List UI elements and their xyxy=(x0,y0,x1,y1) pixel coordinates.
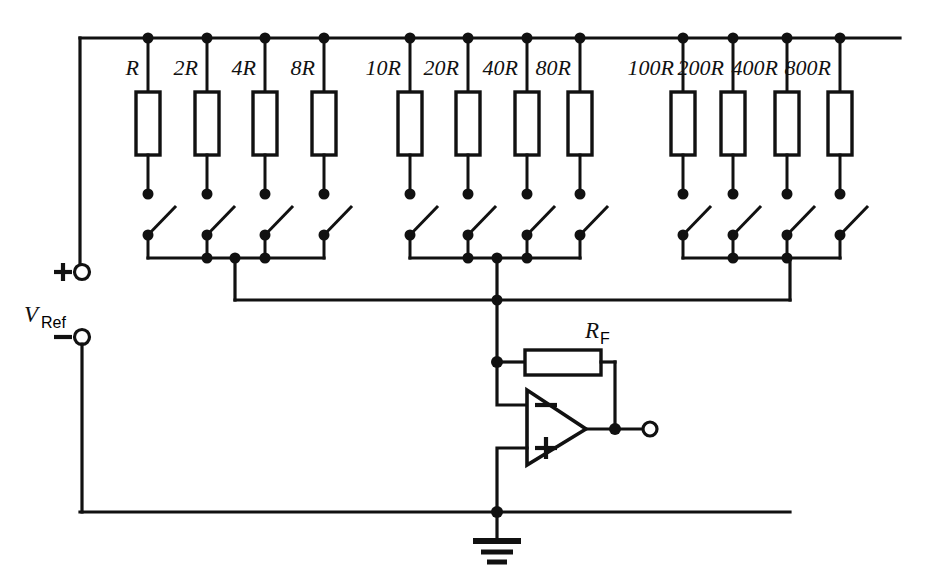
switch-top-node-10R xyxy=(405,189,416,200)
switch-top-node-8R xyxy=(319,189,330,200)
label-800R: 800R xyxy=(785,55,832,80)
vref-plus-terminal[interactable] xyxy=(75,265,90,280)
resistor-body-2R xyxy=(195,92,219,155)
rf-label: R F xyxy=(584,318,610,347)
units-bus-node-b xyxy=(260,253,271,264)
label-4R: 4R xyxy=(232,55,257,80)
circuit-diagram: R 2R 4R 8R 10R 20R 40R 80R 100R 200R 400… xyxy=(0,0,926,580)
resistor-body-RF xyxy=(525,350,601,375)
output-node xyxy=(609,423,621,435)
switch-arm-4R xyxy=(265,207,292,235)
switch-arm-10R xyxy=(410,207,437,235)
ground-symbol xyxy=(473,541,521,562)
label-40R: 40R xyxy=(483,55,519,80)
vref-label: V Ref xyxy=(24,302,66,331)
resistor-labels: R 2R 4R 8R 10R 20R 40R 80R 100R 200R 400… xyxy=(125,55,832,80)
switch-top-node-80R xyxy=(575,189,586,200)
tens-bus-node-b xyxy=(522,253,533,264)
opamp-symbol xyxy=(497,390,657,512)
label-2R: 2R xyxy=(174,55,199,80)
switch-arm-100R xyxy=(683,207,710,235)
switch-top-node-20R xyxy=(463,189,474,200)
switch-arm-20R xyxy=(468,207,495,235)
output-terminal[interactable] xyxy=(643,422,657,436)
switch-top-node-400R xyxy=(782,189,793,200)
switch-arm-400R xyxy=(787,207,814,235)
vref-symbol: V xyxy=(24,302,41,327)
switch-arm-8R xyxy=(324,207,351,235)
resistor-body-800R xyxy=(828,92,852,155)
resistor-body-20R xyxy=(456,92,480,155)
switch-arm-R xyxy=(148,207,175,235)
switch-top-node-800R xyxy=(835,189,846,200)
switch-arm-40R xyxy=(527,207,554,235)
resistor-body-100R xyxy=(671,92,695,155)
resistor-body-400R xyxy=(775,92,799,155)
resistor-body-4R xyxy=(253,92,277,155)
ground-rail xyxy=(80,506,790,562)
label-100R: 100R xyxy=(628,55,675,80)
label-20R: 20R xyxy=(424,55,460,80)
hundreds-bus-node-a xyxy=(728,253,739,264)
schematic-canvas: R 2R 4R 8R 10R 20R 40R 80R 100R 200R 400… xyxy=(0,0,926,580)
switch-top-node-R xyxy=(143,189,154,200)
resistor-branch-80R xyxy=(568,33,607,259)
switch-top-node-40R xyxy=(522,189,533,200)
resistor-body-8R xyxy=(312,92,336,155)
resistor-body-200R xyxy=(721,92,745,155)
resistor-branch-R xyxy=(136,33,175,259)
resistor-branch-800R xyxy=(828,33,867,259)
vref-subscript: Ref xyxy=(41,314,66,331)
summing-bus xyxy=(235,295,790,363)
vref-source xyxy=(54,263,90,512)
resistor-body-R xyxy=(136,92,160,155)
resistor-branch-8R xyxy=(312,33,351,259)
switch-top-node-100R xyxy=(678,189,689,200)
resistor-branch-4R xyxy=(253,33,292,259)
switch-arm-80R xyxy=(580,207,607,235)
label-8R: 8R xyxy=(291,55,316,80)
resistor-branch-2R xyxy=(195,33,234,259)
label-400R: 400R xyxy=(732,55,779,80)
label-R: R xyxy=(125,55,140,80)
vref-minus-terminal[interactable] xyxy=(75,330,90,345)
rf-symbol: R xyxy=(584,318,599,343)
switch-arm-800R xyxy=(840,207,867,235)
units-bus-node-a xyxy=(202,253,213,264)
label-80R: 80R xyxy=(536,55,572,80)
rf-subscript: F xyxy=(600,330,610,347)
switch-top-node-200R xyxy=(728,189,739,200)
label-200R: 200R xyxy=(678,55,725,80)
resistor-body-40R xyxy=(515,92,539,155)
resistor-body-10R xyxy=(398,92,422,155)
switch-arm-2R xyxy=(207,207,234,235)
switch-top-node-2R xyxy=(202,189,213,200)
label-10R: 10R xyxy=(366,55,402,80)
switch-top-node-4R xyxy=(260,189,271,200)
resistor-body-80R xyxy=(568,92,592,155)
tens-bus-node-a xyxy=(463,253,474,264)
switch-arm-200R xyxy=(733,207,760,235)
